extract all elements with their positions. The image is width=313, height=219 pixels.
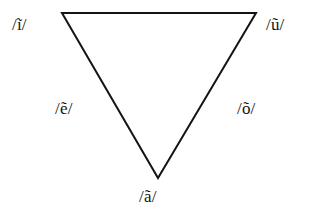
- vowel-triangle-figure: /ĩ/ /ũ/ /ẽ/ /õ/ /ã/: [0, 0, 313, 219]
- vowel-label-o-nasal: /õ/: [237, 100, 256, 117]
- triangle-shape: [62, 13, 256, 178]
- vowel-label-i-nasal: /ĩ/: [12, 16, 27, 33]
- vowel-label-u-nasal: /ũ/: [266, 16, 285, 33]
- vowel-label-e-nasal: /ẽ/: [55, 100, 73, 117]
- vowel-label-a-nasal: /ã/: [139, 188, 157, 205]
